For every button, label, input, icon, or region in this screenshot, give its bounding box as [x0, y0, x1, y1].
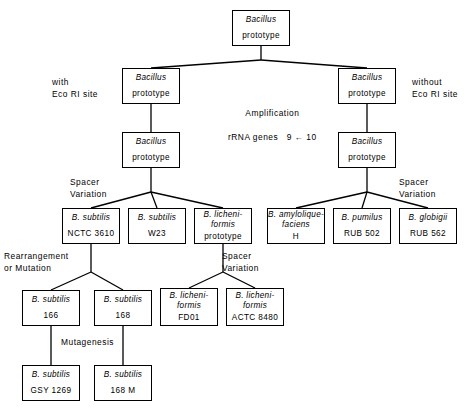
- node-box-amylolique: B. amylolique-faciensH: [267, 208, 325, 244]
- node-species-subtilis_166: B. subtilis: [32, 295, 70, 305]
- node-species-left_proto2: Bacillus: [136, 137, 167, 147]
- node-species-pumilus: B. pumilus: [341, 213, 382, 223]
- node-strain-globigii: RUB 562: [410, 229, 446, 239]
- node-box-licheni_proto: B. licheni-formisprototype: [194, 208, 252, 244]
- node-species-root: Bacillus: [246, 15, 277, 25]
- node-box-subtilis_w23: B. subtilisW23: [128, 208, 186, 244]
- node-box-subtilis_gsy: B. subtilisGSY 1269: [22, 365, 80, 401]
- node-species-globigii: B. globigii: [409, 213, 448, 223]
- node-species-licheni_fd01: B. licheni-: [169, 291, 208, 301]
- node-box-left_proto1: Bacillusprototype: [122, 68, 180, 104]
- node-strain-subtilis_w23: W23: [148, 229, 166, 239]
- annotation-rearrangement: Rearrangement or Mutation: [4, 250, 69, 274]
- annotation-spacer_right: Spacer Variation: [399, 176, 436, 200]
- node-box-subtilis_168m: B. subtilis168 M: [94, 365, 152, 401]
- node-strain-subtilis_nctc: NCTC 3610: [68, 229, 115, 239]
- node-species-subtilis_nctc: B. subtilis: [72, 213, 110, 223]
- node-strain-left_proto2: prototype: [132, 153, 170, 163]
- node-box-subtilis_168: B. subtilis168: [94, 290, 152, 326]
- node-box-pumilus: B. pumilusRUB 502: [333, 208, 391, 244]
- annotation-with_eco: with Eco RI site: [52, 76, 98, 100]
- node-species-subtilis_w23: B. subtilis: [138, 213, 176, 223]
- edge-nctc-to-166: [51, 272, 91, 290]
- bacillus-lineage-diagram: BacillusprototypeBacillusprototypeBacill…: [0, 0, 476, 410]
- node-strain-right_proto1: prototype: [348, 89, 386, 99]
- edge-left2-to-licheni: [151, 192, 223, 208]
- annotation-spacer_mid: Spacer Variation: [222, 250, 259, 274]
- node-box-left_proto2: Bacillusprototype: [122, 132, 180, 168]
- edge-licheni-to-actc: [223, 272, 255, 288]
- node-strain-pumilus: RUB 502: [344, 229, 380, 239]
- node-strain-amylolique: H: [293, 232, 299, 242]
- node-box-right_proto1: Bacillusprototype: [338, 68, 396, 104]
- node-box-licheni_actc: B. licheni-formisACTC 8480: [226, 288, 284, 326]
- node-species-subtilis_gsy: B. subtilis: [32, 370, 70, 380]
- node-species-amylolique: B. amylolique-: [268, 210, 324, 220]
- node-species-cont-amylolique: faciens: [282, 220, 310, 230]
- node-box-subtilis_166: B. subtilis166: [22, 290, 80, 326]
- node-species-licheni_proto: B. licheni-: [203, 210, 242, 220]
- annotation-spacer_left: Spacer Variation: [70, 176, 107, 200]
- annotation-mutagenesis: Mutagenesis: [61, 336, 114, 348]
- node-box-licheni_fd01: B. licheni-formisFD01: [160, 288, 218, 326]
- edge-left2-to-w23: [151, 192, 157, 208]
- node-strain-right_proto2: prototype: [348, 153, 386, 163]
- annotation-without_eco: without Eco RI site: [412, 76, 458, 100]
- node-strain-root: prototype: [242, 31, 280, 41]
- edge-right2-to-pumilus: [362, 192, 367, 208]
- edge-nctc-to-168: [91, 272, 123, 290]
- node-species-licheni_actc: B. licheni-: [235, 291, 274, 301]
- edge-licheni-to-fd01: [189, 272, 223, 288]
- annotation-amplification: Amplification rRNA genes 9 ← 10: [228, 107, 317, 144]
- node-strain-subtilis_168m: 168 M: [111, 386, 136, 396]
- node-strain-subtilis_gsy: GSY 1269: [31, 386, 72, 396]
- node-strain-licheni_proto: prototype: [204, 232, 242, 242]
- node-strain-subtilis_166: 166: [44, 311, 59, 321]
- node-species-subtilis_168: B. subtilis: [104, 295, 142, 305]
- node-box-root: Bacillusprototype: [232, 10, 290, 46]
- node-strain-licheni_actc: ACTC 8480: [232, 313, 278, 323]
- node-species-cont-licheni_fd01: formis: [177, 301, 201, 311]
- node-species-cont-licheni_actc: formis: [243, 301, 267, 311]
- diagram-edges: [0, 0, 476, 410]
- edge-root-to-left: [151, 60, 261, 68]
- node-strain-licheni_fd01: FD01: [178, 313, 200, 323]
- edge-right2-to-amylo: [296, 192, 367, 208]
- node-strain-subtilis_168: 168: [116, 311, 131, 321]
- node-species-right_proto1: Bacillus: [352, 73, 383, 83]
- node-species-right_proto2: Bacillus: [352, 137, 383, 147]
- node-box-globigii: B. globigiiRUB 562: [399, 208, 457, 244]
- node-species-subtilis_168m: B. subtilis: [104, 370, 142, 380]
- node-species-cont-licheni_proto: formis: [211, 220, 235, 230]
- node-strain-left_proto1: prototype: [132, 89, 170, 99]
- node-species-left_proto1: Bacillus: [136, 73, 167, 83]
- node-box-right_proto2: Bacillusprototype: [338, 132, 396, 168]
- edge-root-to-right: [261, 60, 367, 68]
- node-box-subtilis_nctc: B. subtilisNCTC 3610: [62, 208, 120, 244]
